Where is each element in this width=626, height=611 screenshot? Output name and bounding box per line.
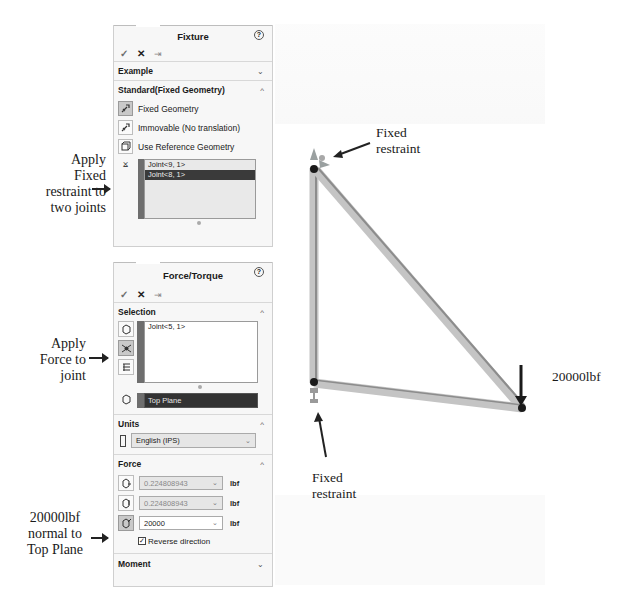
truss-model-view[interactable]: [0, 0, 626, 611]
bottom-beam[interactable]: [314, 383, 522, 408]
diagonal-beam[interactable]: [316, 170, 522, 408]
label-force-value: 20000lbf: [552, 369, 601, 385]
label-top-fixed-restraint: Fixed restraint: [376, 125, 420, 157]
joint-bottom-right[interactable]: [518, 404, 526, 412]
annotation-arrow: [319, 418, 326, 457]
fixed-restraint-icon: [310, 388, 318, 393]
joint-bottom-left[interactable]: [310, 378, 318, 386]
fixed-restraint-icon: [310, 148, 318, 160]
annotation-arrow: [338, 143, 370, 155]
label-bottom-fixed-restraint: Fixed restraint: [312, 470, 356, 502]
joint-top[interactable]: [310, 165, 318, 173]
